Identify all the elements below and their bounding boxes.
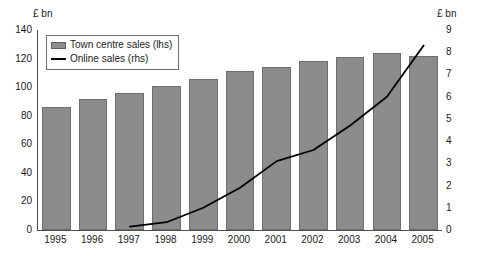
x-axis-tick-2002: 2002 bbox=[294, 234, 331, 245]
left-axis-tick-0: 0 bbox=[6, 225, 32, 235]
right-axis: 9876543210 bbox=[446, 0, 474, 260]
x-axis-tick-2001: 2001 bbox=[257, 234, 294, 245]
left-axis-tick-140: 140 bbox=[6, 25, 32, 35]
right-axis-tick-3: 3 bbox=[446, 158, 472, 168]
left-axis-tick-120: 120 bbox=[6, 54, 32, 64]
legend-label-town-centre-sales: Town centre sales (lhs) bbox=[70, 40, 172, 50]
right-axis-tick-2: 2 bbox=[446, 181, 472, 191]
right-axis-tick-6: 6 bbox=[446, 92, 472, 102]
right-axis-tick-9: 9 bbox=[446, 25, 472, 35]
x-axis-tick-1995: 1995 bbox=[37, 234, 74, 245]
x-axis-tick-2003: 2003 bbox=[331, 234, 368, 245]
left-axis-unit-label: £ bn bbox=[33, 8, 52, 19]
x-axis-tick-1997: 1997 bbox=[110, 234, 147, 245]
right-axis-tick-1: 1 bbox=[446, 203, 472, 213]
legend: Town centre sales (lhs) Online sales (rh… bbox=[46, 35, 179, 70]
right-axis-tick-7: 7 bbox=[446, 69, 472, 79]
left-axis-tick-40: 40 bbox=[6, 168, 32, 178]
left-axis-tick-60: 60 bbox=[6, 139, 32, 149]
bar-swatch-icon bbox=[51, 42, 66, 49]
line-swatch-icon bbox=[51, 58, 66, 60]
left-axis: 140120100806040200 bbox=[4, 0, 32, 260]
x-axis-tick-2000: 2000 bbox=[221, 234, 258, 245]
left-axis-tick-100: 100 bbox=[6, 82, 32, 92]
right-axis-tick-8: 8 bbox=[446, 47, 472, 57]
x-axis: 1995199619971998199920002001200220032004… bbox=[37, 234, 441, 250]
x-axis-tick-1996: 1996 bbox=[74, 234, 111, 245]
x-axis-tick-2005: 2005 bbox=[404, 234, 441, 245]
legend-item-town-centre-sales: Town centre sales (lhs) bbox=[51, 38, 172, 52]
right-axis-tick-5: 5 bbox=[446, 114, 472, 124]
x-axis-tick-1998: 1998 bbox=[147, 234, 184, 245]
right-axis-tick-4: 4 bbox=[446, 136, 472, 146]
x-axis-tick-2004: 2004 bbox=[368, 234, 405, 245]
right-axis-tick-0: 0 bbox=[446, 225, 472, 235]
left-axis-tick-80: 80 bbox=[6, 111, 32, 121]
left-axis-tick-20: 20 bbox=[6, 196, 32, 206]
chart-container: £ bn £ bn 140120100806040200 9876543210 … bbox=[0, 0, 482, 260]
legend-item-online-sales: Online sales (rhs) bbox=[51, 52, 172, 66]
legend-label-online-sales: Online sales (rhs) bbox=[70, 54, 148, 64]
x-axis-tick-1999: 1999 bbox=[184, 234, 221, 245]
online-sales-polyline bbox=[130, 46, 424, 227]
